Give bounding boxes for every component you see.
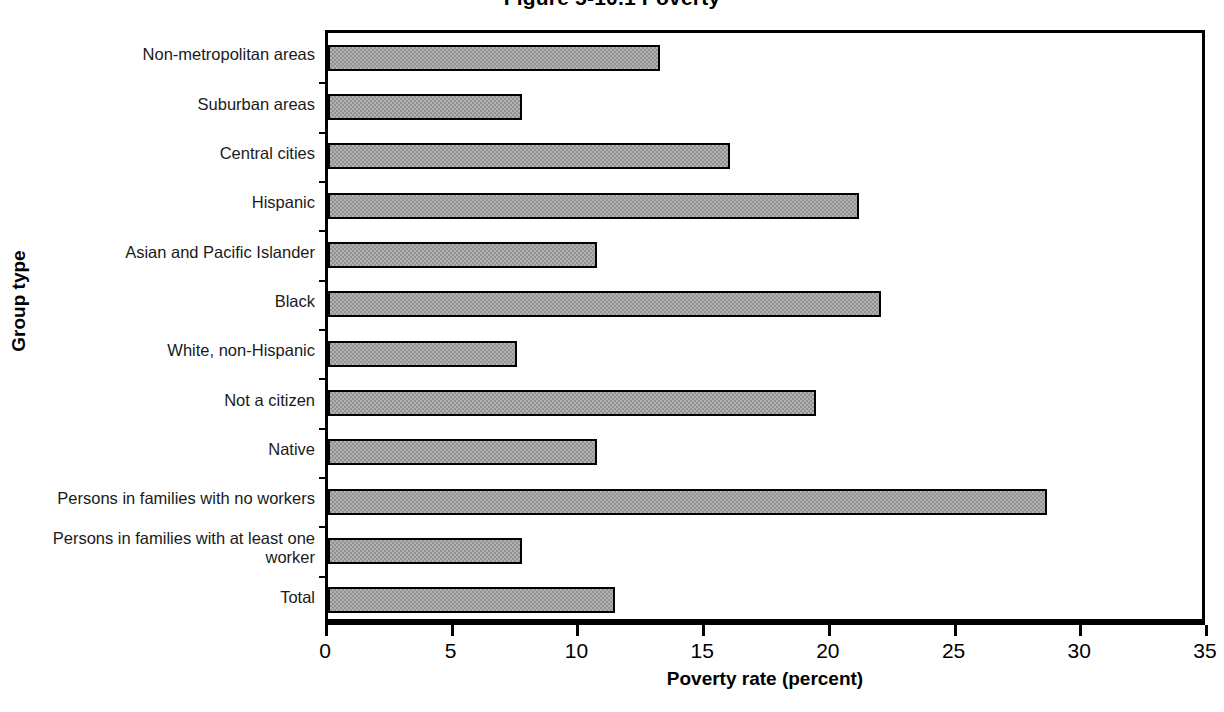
bar — [328, 341, 517, 367]
bar — [328, 242, 597, 268]
y-axis-tick — [319, 329, 328, 331]
bar — [328, 538, 522, 564]
x-axis-tick — [954, 625, 957, 636]
y-axis-tick — [319, 132, 328, 134]
x-axis-tick — [828, 625, 831, 636]
chart-title: Figure 5-10.1 Poverty — [0, 0, 1224, 10]
x-axis-tick — [325, 625, 328, 636]
y-axis-tick — [319, 526, 328, 528]
x-axis-tick-label: 10 — [565, 639, 588, 663]
y-axis-tick — [319, 181, 328, 183]
x-axis-tick-label: 25 — [942, 639, 965, 663]
category-label: Not a citizen — [20, 391, 315, 410]
x-axis-title: Poverty rate (percent) — [325, 668, 1205, 690]
bar — [328, 291, 881, 317]
category-label: Hispanic — [20, 193, 315, 212]
category-label: White, non-Hispanic — [20, 341, 315, 360]
x-axis-tick-label: 0 — [319, 639, 331, 663]
bar — [328, 143, 730, 169]
category-axis-labels: Non-metropolitan areasSuburban areasCent… — [20, 30, 315, 622]
category-label: Native — [20, 440, 315, 459]
x-axis-tick-label: 20 — [816, 639, 839, 663]
bars-layer — [328, 33, 1202, 619]
x-axis-tick-label: 15 — [690, 639, 713, 663]
category-label: Black — [20, 292, 315, 311]
y-axis-tick — [319, 477, 328, 479]
category-label: Persons in families with at least one wo… — [20, 529, 315, 567]
x-axis-tick — [1205, 625, 1208, 636]
category-label: Asian and Pacific Islander — [20, 243, 315, 262]
bar — [328, 390, 816, 416]
bar — [328, 439, 597, 465]
x-axis-tick — [702, 625, 705, 636]
bar — [328, 587, 615, 613]
x-axis-tick-label: 5 — [445, 639, 457, 663]
bar — [328, 45, 660, 71]
y-axis-tick — [319, 428, 328, 430]
x-axis: 05101520253035 — [325, 622, 1205, 625]
x-axis-tick — [576, 625, 579, 636]
category-label: Suburban areas — [20, 95, 315, 114]
category-label: Persons in families with no workers — [20, 489, 315, 508]
plot-area — [325, 30, 1205, 622]
x-axis-tick — [451, 625, 454, 636]
poverty-rate-bar-chart: Figure 5-10.1 Poverty Group type Non-met… — [0, 0, 1224, 712]
bar — [328, 94, 522, 120]
y-axis-tick — [319, 82, 328, 84]
category-label: Total — [20, 588, 315, 607]
x-axis-tick-label: 30 — [1068, 639, 1091, 663]
y-axis-tick — [319, 230, 328, 232]
bar — [328, 193, 859, 219]
category-label: Non-metropolitan areas — [20, 45, 315, 64]
bar — [328, 489, 1047, 515]
y-axis-tick — [319, 576, 328, 578]
y-axis-tick — [319, 378, 328, 380]
y-axis-tick — [319, 280, 328, 282]
category-label: Central cities — [20, 144, 315, 163]
x-axis-tick — [1079, 625, 1082, 636]
x-axis-tick-label: 35 — [1193, 639, 1216, 663]
